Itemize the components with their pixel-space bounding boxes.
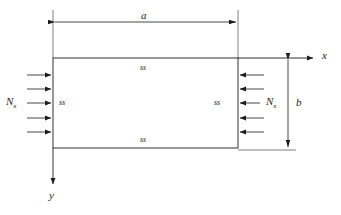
load-label-left: Nx [6,96,16,110]
diagram-canvas [0,0,341,215]
right-load-arrows [240,75,264,132]
axis-label-x: x [322,50,327,61]
dimension-label-a: a [141,10,147,21]
extension-lines [53,10,296,150]
edge-condition-left: ss [59,99,65,107]
axis-label-y: y [49,190,54,201]
plate-buckling-diagram: a b x y ss ss ss ss Nx Nx [0,0,341,215]
load-label-right-subscript: x [273,102,276,110]
left-load-arrows [27,75,51,132]
edge-condition-right: ss [214,99,220,107]
dimension-label-b: b [296,97,302,108]
load-label-left-subscript: x [13,102,16,110]
edge-condition-bottom: ss [140,136,146,144]
edge-condition-top: ss [140,64,146,72]
load-label-right: Nx [266,96,276,110]
